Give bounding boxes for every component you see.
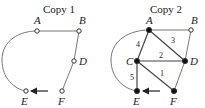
vertex-label-B: B: [191, 14, 198, 26]
edge-weight-label: 1: [160, 69, 164, 78]
edge-D-F: [62, 61, 74, 91]
edge-weight-label: 3: [171, 36, 175, 45]
vertex-D: [182, 58, 187, 63]
arc-A-E: [2, 31, 37, 91]
vertex-label-B: B: [79, 14, 86, 26]
vertex-label-E: E: [20, 95, 28, 107]
vertex-label-A: A: [145, 14, 153, 26]
vertex-B: [77, 29, 81, 33]
vertex-label-F: F: [57, 95, 65, 107]
diagram-copy-2: Copy 243215ABCDEF: [111, 3, 198, 107]
edge-C-F: [137, 61, 174, 91]
vertex-label-F: F: [169, 95, 177, 107]
vertex-B: [189, 28, 193, 32]
vertex-A: [146, 27, 151, 32]
graph-diagrams: Copy 1ABDEFCopy 243215ABCDEF: [0, 0, 205, 108]
diagram-title: Copy 2: [150, 3, 182, 15]
vertex-F: [171, 88, 176, 93]
vertex-label-C: C: [126, 55, 134, 67]
diagram-stage: Copy 1ABDEFCopy 243215ABCDEF: [0, 0, 205, 108]
vertex-C: [134, 58, 139, 63]
vertex-F: [60, 89, 64, 93]
edge-D-F: [174, 61, 185, 91]
diagram-title: Copy 1: [43, 3, 75, 15]
vertex-D: [72, 59, 76, 63]
edge-A-D: [149, 30, 185, 61]
edge-weight-label: 4: [136, 40, 140, 49]
diagram-copy-1: Copy 1ABDEF: [2, 3, 87, 107]
vertex-A: [35, 29, 39, 33]
edge-weight-label: 5: [130, 73, 134, 82]
vertex-label-A: A: [33, 14, 41, 26]
vertex-label-D: D: [189, 55, 198, 67]
vertex-label-E: E: [132, 95, 140, 107]
vertex-E: [134, 88, 139, 93]
edge-weight-label: 2: [159, 51, 163, 60]
vertex-E: [24, 89, 28, 93]
vertex-label-D: D: [78, 55, 87, 67]
